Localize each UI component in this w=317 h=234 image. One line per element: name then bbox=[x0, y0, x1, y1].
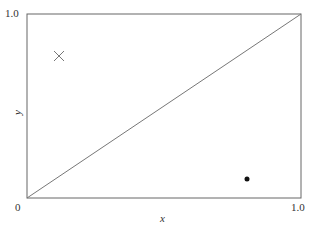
diagonal-line bbox=[27, 14, 301, 198]
origin-tick-label: 0 bbox=[15, 202, 21, 213]
y-max-tick-label: 1.0 bbox=[5, 8, 19, 19]
chart-canvas bbox=[0, 0, 317, 234]
x-max-tick-label: 1.0 bbox=[291, 202, 305, 213]
y-axis-label: y bbox=[12, 110, 23, 115]
x-axis-label: x bbox=[160, 213, 165, 224]
cross-marker-icon bbox=[54, 51, 64, 61]
dot-marker-icon bbox=[245, 177, 250, 182]
